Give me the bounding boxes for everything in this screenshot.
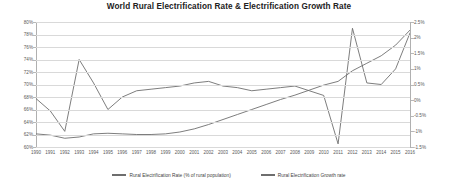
y-axis-right-tick — [411, 85, 414, 86]
legend-item-growth: Rural Electrification Growth rate — [261, 173, 346, 178]
y-axis-left-tick — [33, 35, 36, 36]
y-axis-left-tick-label: 66% — [7, 107, 33, 112]
plot-area — [36, 22, 410, 147]
y-axis-left-tick-label: 72% — [7, 70, 33, 75]
y-axis-left-tick-label: 74% — [7, 57, 33, 62]
gridline — [36, 47, 410, 48]
y-axis-left-tick — [33, 85, 36, 86]
y-axis-left-tick-label: 62% — [7, 132, 33, 137]
gridline — [36, 35, 410, 36]
y-axis-left-tick-label: 60% — [7, 145, 33, 150]
y-axis-left-tick-label: 76% — [7, 45, 33, 50]
y-axis-left-tick-label: 68% — [7, 95, 33, 100]
y-axis-right-tick-label: -0.5% — [414, 113, 444, 118]
y-axis-right-tick — [411, 53, 414, 54]
y-axis-left-tick — [33, 97, 36, 98]
chart-container: World Rural Electrification Rate & Elect… — [0, 0, 458, 187]
y-axis-right-tick-label: 2% — [414, 35, 444, 40]
y-axis-left-tick-label: 80% — [7, 20, 33, 25]
y-axis-left-tick — [33, 72, 36, 73]
chart-title: World Rural Electrification Rate & Elect… — [0, 2, 458, 11]
y-axis-right-tick — [411, 22, 414, 23]
gridline — [36, 135, 410, 136]
y-axis-right-tick — [411, 116, 414, 117]
x-axis-tick-label: 2016 — [399, 150, 421, 156]
y-axis-right-tick-label: 2.5% — [414, 20, 444, 25]
y-axis-right-tick-label: 1% — [414, 66, 444, 71]
y-axis-left-tick — [33, 110, 36, 111]
line-swatch-icon — [261, 174, 275, 175]
gridline — [36, 122, 410, 123]
y-axis-right-tick — [411, 147, 414, 148]
y-axis-left-tick-label: 64% — [7, 120, 33, 125]
y-axis-left-tick-label: 78% — [7, 32, 33, 37]
gridline — [36, 60, 410, 61]
legend-label-growth: Rural Electrification Growth rate — [278, 173, 346, 178]
y-axis-right-labels: -1.5%-1%-0.5%0%0.5%1%1.5%2%2.5% — [414, 22, 446, 148]
y-axis-left-tick — [33, 147, 36, 148]
x-axis-labels: 1990199119921993199419951996199719981999… — [36, 150, 410, 162]
gridline — [36, 97, 410, 98]
y-axis-right-tick-label: 1.5% — [414, 51, 444, 56]
gridline — [36, 110, 410, 111]
series-line-rural-electrification-growth-rate — [36, 28, 410, 144]
y-axis-left-tick — [33, 47, 36, 48]
gridline — [36, 22, 410, 23]
legend-item-rate: Rural Electrification Rate (% of rural p… — [112, 173, 230, 178]
y-axis-left-labels: 60%62%64%66%68%70%72%74%76%78%80% — [6, 22, 33, 148]
line-swatch-icon — [112, 174, 126, 175]
y-axis-left-tick — [33, 122, 36, 123]
y-axis-right-tick — [411, 38, 414, 39]
y-axis-right-tick — [411, 69, 414, 70]
y-axis-left-tick — [33, 135, 36, 136]
gridline — [36, 85, 410, 86]
y-axis-right-tick-label: 0.5% — [414, 82, 444, 87]
gridline — [36, 72, 410, 73]
y-axis-right-tick — [411, 100, 414, 101]
y-axis-left-tick — [33, 60, 36, 61]
y-axis-left-tick-label: 70% — [7, 82, 33, 87]
gridline — [36, 147, 410, 148]
y-axis-right-tick-label: 0% — [414, 98, 444, 103]
y-axis-right-tick-label: -1% — [414, 129, 444, 134]
y-axis-right-tick-label: -1.5% — [414, 145, 444, 150]
chart-legend: Rural Electrification Rate (% of rural p… — [0, 168, 458, 182]
y-axis-right-tick — [411, 131, 414, 132]
y-axis-left-tick — [33, 22, 36, 23]
legend-label-rate: Rural Electrification Rate (% of rural p… — [129, 173, 230, 178]
